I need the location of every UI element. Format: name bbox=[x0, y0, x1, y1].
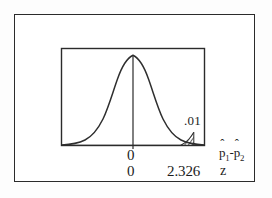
tail-area-label: .01 bbox=[184, 114, 201, 127]
p2-subscript: 2 bbox=[240, 153, 244, 163]
hat-accent-1: ˆ bbox=[220, 138, 224, 150]
critical-value-label: 2.326 bbox=[167, 164, 200, 179]
normal-curve-plot bbox=[0, 0, 272, 198]
param-axis-zero-label: 0 bbox=[127, 148, 135, 163]
p1-hat-symbol: ˆp bbox=[219, 146, 225, 159]
figure-root: .01 0 0 2.326 ˆp1-ˆp2 z bbox=[0, 0, 272, 198]
param-axis-label: ˆp1-ˆp2 bbox=[219, 146, 244, 159]
z-axis-zero-label: 0 bbox=[127, 164, 135, 179]
p2-hat-symbol: ˆp bbox=[234, 146, 240, 159]
hat-accent-2: ˆ bbox=[235, 138, 239, 150]
z-axis-label: z bbox=[220, 164, 226, 178]
